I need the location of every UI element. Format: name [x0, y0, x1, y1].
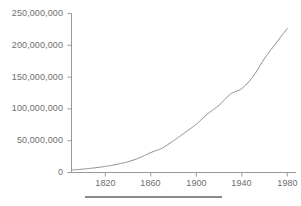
population-line: [72, 28, 288, 170]
x-tick-label-1860: 1860: [128, 179, 173, 188]
x-tick-label-1900: 1900: [174, 179, 219, 188]
y-tick-label-150000000: 150,000,000: [0, 73, 63, 82]
x-tick-label-1820: 1820: [83, 179, 128, 188]
y-tick-label-100000000: 100,000,000: [0, 104, 63, 113]
x-axis-ticks: [105, 173, 287, 177]
y-tick-label-0: 0: [0, 168, 63, 177]
y-axis-ticks: [68, 14, 72, 173]
y-tick-label-50000000: 50,000,000: [0, 136, 63, 145]
y-tick-label-200000000: 200,000,000: [0, 41, 63, 50]
x-tick-label-1980: 1980: [265, 179, 301, 188]
x-tick-label-1940: 1940: [219, 179, 264, 188]
population-growth-chart: 250,000,000 200,000,000 150,000,000 100,…: [0, 0, 301, 206]
caption-rule: [85, 196, 222, 198]
y-tick-label-250000000: 250,000,000: [0, 9, 63, 18]
